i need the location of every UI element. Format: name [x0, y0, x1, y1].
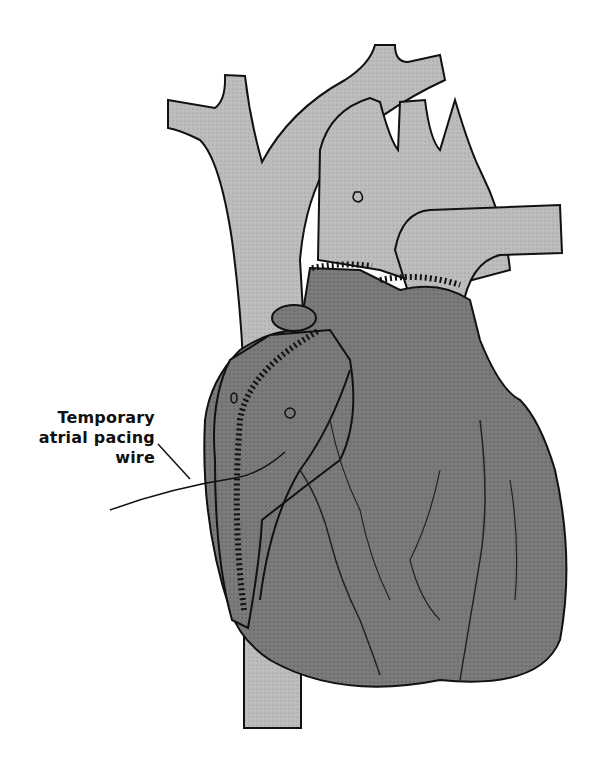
heart-illustration: [0, 0, 598, 769]
label-line-2: atrial pacing: [39, 428, 155, 448]
label-line-3: wire: [39, 448, 155, 468]
pacing-wire-label: Temporary atrial pacing wire: [39, 408, 155, 468]
leader-line: [158, 444, 190, 479]
label-line-1: Temporary: [39, 408, 155, 428]
